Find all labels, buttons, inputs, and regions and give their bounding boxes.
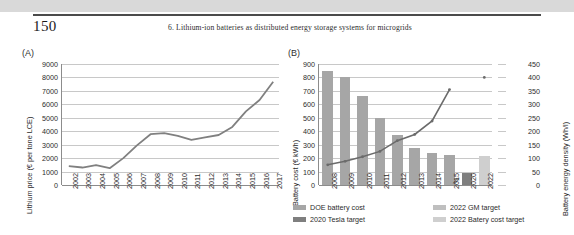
x-tick-label: 2013 xyxy=(417,173,426,189)
x-tick-label: 2003 xyxy=(84,173,93,189)
x-tick-label: 2015 xyxy=(248,173,257,189)
line-path xyxy=(328,90,450,165)
panel-b-secondary-y-axis-title: Battery energy density (Wh/l) xyxy=(561,122,570,216)
y-tick-label: 400 xyxy=(303,127,315,136)
secondary-y-tick-label: 400 xyxy=(528,73,540,82)
legend-swatch xyxy=(293,205,306,210)
x-tick-label: 2009 xyxy=(166,173,175,189)
x-tick-label: 2004 xyxy=(98,173,107,189)
y-tick-label: 100 xyxy=(303,167,315,176)
line-marker xyxy=(431,120,434,123)
page-top-band xyxy=(0,0,574,12)
x-tick-label: 2014 xyxy=(434,173,443,189)
panel-a-y-axis-title: Lithium price (€ per tone LCE) xyxy=(25,117,34,214)
secondary-axis-tick-mark xyxy=(498,91,506,92)
panel-b-plot-area xyxy=(318,64,492,185)
legend-swatch xyxy=(293,217,306,222)
y-tick-label: 9000 xyxy=(42,60,58,69)
line-marker xyxy=(344,160,347,163)
line-marker xyxy=(413,133,416,136)
x-tick-label: 2002 xyxy=(71,173,80,189)
legend-swatch xyxy=(433,217,446,222)
y-tick-label: 700 xyxy=(303,86,315,95)
legend-label: 2022 GM target xyxy=(450,203,500,212)
secondary-y-tick-label: 250 xyxy=(528,113,540,122)
x-tick-label: 2013 xyxy=(221,173,230,189)
x-tick-label: 2010 xyxy=(180,173,189,189)
secondary-y-tick-label: 200 xyxy=(528,127,540,136)
x-tick-label: 2017 xyxy=(275,173,284,189)
panel-b-label: (B) xyxy=(288,48,300,58)
x-tick-label: 2007 xyxy=(139,173,148,189)
legend-label: 2020 Tesla target xyxy=(310,215,365,224)
panel-b-y-axis-title: Battery cost (€ kWh) xyxy=(291,140,300,206)
secondary-axis-tick-mark xyxy=(498,131,506,132)
panel-a-plot-area xyxy=(61,64,279,185)
y-tick-label: 300 xyxy=(303,140,315,149)
y-tick-label: 0 xyxy=(54,181,58,190)
secondary-y-tick-label: 300 xyxy=(528,100,540,109)
y-tick-label: 8000 xyxy=(42,73,58,82)
line-marker xyxy=(483,76,486,79)
legend-item: 2020 Tesla target xyxy=(293,215,365,224)
secondary-axis-tick-mark xyxy=(498,185,506,186)
x-tick-label: 2011 xyxy=(382,174,391,189)
secondary-axis-tick-mark xyxy=(498,158,506,159)
secondary-axis-tick-mark xyxy=(498,145,506,146)
y-tick-label: 200 xyxy=(303,154,315,163)
legend-label: 2022 Batery cost target xyxy=(450,215,524,224)
figure-panel-b: (B) Battery cost (€ kWh) Battery energy … xyxy=(285,48,574,233)
panel-a-line-series xyxy=(62,64,280,185)
y-tick-label: 3000 xyxy=(42,140,58,149)
secondary-y-tick-label: 150 xyxy=(528,140,540,149)
secondary-axis-tick-mark xyxy=(498,104,506,105)
x-tick-label: 2022 xyxy=(486,173,495,189)
header-rule xyxy=(33,14,541,16)
line-path xyxy=(69,82,273,168)
legend-item: DOE battery cost xyxy=(293,203,365,212)
x-tick-label: 2005 xyxy=(112,173,121,189)
secondary-axis-tick-mark xyxy=(498,172,506,173)
y-tick-label: 800 xyxy=(303,73,315,82)
x-tick-label: 2011 xyxy=(193,174,202,189)
secondary-y-tick-label: 100 xyxy=(528,154,540,163)
x-tick-label: 2014 xyxy=(234,173,243,189)
y-tick-label: 7000 xyxy=(42,86,58,95)
y-tick-label: 1000 xyxy=(42,167,58,176)
running-head: 6. Lithium-ion batteries as distributed … xyxy=(120,23,460,32)
secondary-axis-tick-mark xyxy=(498,77,506,78)
figure-panel-a: (A) Lithium price (€ per tone LCE) 01000… xyxy=(14,48,286,233)
line-marker xyxy=(448,88,451,91)
legend-swatch xyxy=(433,205,446,210)
line-marker xyxy=(396,139,399,142)
x-tick-label: 2009 xyxy=(347,173,356,189)
x-tick-label: 2008 xyxy=(153,173,162,189)
legend-label: DOE battery cost xyxy=(310,203,365,212)
y-tick-label: 4000 xyxy=(42,127,58,136)
x-tick-label: 2010 xyxy=(365,173,374,189)
x-tick-label: 2006 xyxy=(125,173,134,189)
secondary-y-tick-label: 350 xyxy=(528,86,540,95)
secondary-y-tick-label: 50 xyxy=(532,167,540,176)
x-tick-label: 2012 xyxy=(399,173,408,189)
legend-item: 2022 GM target xyxy=(433,203,500,212)
y-tick-label: 900 xyxy=(303,60,315,69)
line-marker xyxy=(326,163,329,166)
panel-b-line-series xyxy=(319,64,493,185)
panel-b-legend: DOE battery cost2020 Tesla target2022 GM… xyxy=(293,203,574,231)
panel-a-label: (A) xyxy=(22,48,34,58)
y-tick-label: 2000 xyxy=(42,154,58,163)
y-tick-label: 500 xyxy=(303,113,315,122)
x-tick-label: 2016 xyxy=(262,173,271,189)
legend-item: 2022 Batery cost target xyxy=(433,215,524,224)
line-marker xyxy=(379,150,382,153)
line-marker xyxy=(361,155,364,158)
secondary-y-tick-label: 0 xyxy=(536,181,540,190)
y-tick-label: 0 xyxy=(311,181,315,190)
x-tick-label: 2008 xyxy=(330,173,339,189)
secondary-axis-tick-mark xyxy=(498,118,506,119)
secondary-y-tick-label: 450 xyxy=(528,60,540,69)
page-number: 150 xyxy=(33,18,57,35)
y-tick-label: 5000 xyxy=(42,113,58,122)
secondary-axis-tick-mark xyxy=(498,64,506,65)
